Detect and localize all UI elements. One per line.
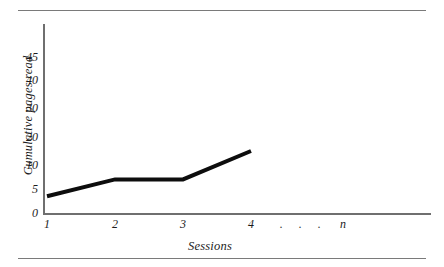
- data-series-line: [0, 0, 444, 267]
- y-axis-title: Cumulative pages read: [21, 26, 36, 206]
- plot-area: 0 5 10 20 30 40 45 1 2 3 4 . . . n Cumul…: [0, 0, 444, 267]
- x-axis-title: Sessions: [150, 239, 270, 254]
- figure-container: 0 5 10 20 30 40 45 1 2 3 4 . . . n Cumul…: [0, 0, 444, 267]
